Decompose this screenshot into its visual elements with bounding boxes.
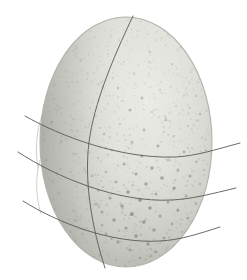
speckle-grain [92, 54, 94, 56]
speckle-grain [129, 134, 131, 136]
speckle-grain [193, 149, 194, 150]
speckle-grain [154, 97, 156, 99]
speckle-grain [78, 118, 79, 119]
speckle-grain [146, 24, 147, 25]
speckle-grain [129, 214, 131, 216]
speckle-grain [106, 251, 108, 253]
speckle-grain [190, 72, 191, 73]
speckle-grain [176, 210, 179, 213]
speckle-grain [137, 101, 139, 103]
speckle-grain [139, 49, 140, 50]
speckle-grain [62, 91, 63, 92]
speckle-grain [96, 160, 97, 161]
speckle-grain [113, 210, 114, 211]
speckle-grain [60, 181, 61, 182]
speckle-grain [171, 63, 173, 65]
speckle-grain [149, 97, 151, 99]
speckle-grain [109, 137, 110, 138]
speckle-grain [103, 65, 104, 66]
speckle-grain [147, 58, 148, 59]
speckle-grain [167, 143, 168, 144]
speckle [195, 95, 197, 97]
speckle-grain [165, 73, 166, 74]
speckle-grain [104, 108, 106, 110]
speckle-grain [184, 229, 186, 231]
speckle-grain [50, 93, 52, 95]
speckle-grain [193, 70, 194, 71]
speckle [148, 206, 152, 210]
speckle-grain [106, 95, 107, 96]
speckle-grain [126, 83, 128, 85]
speckle-grain [96, 66, 98, 68]
speckle-grain [190, 168, 191, 169]
speckle-grain [149, 228, 151, 230]
speckle-grain [179, 153, 181, 155]
speckle-grain [118, 240, 120, 242]
speckle-grain [107, 153, 109, 155]
speckle-grain [190, 199, 191, 200]
speckle-grain [154, 80, 155, 81]
speckle [120, 204, 123, 207]
speckle-grain [169, 229, 171, 231]
speckle-grain [111, 187, 113, 189]
speckle-grain [77, 84, 78, 85]
speckle-grain [142, 109, 144, 111]
speckle-grain [109, 219, 110, 220]
speckle-grain [182, 140, 183, 141]
speckle-grain [123, 29, 125, 31]
speckle [171, 223, 174, 226]
speckle-grain [144, 146, 145, 147]
speckle-grain [112, 28, 114, 30]
speckle-grain [53, 95, 54, 96]
speckle-grain [72, 72, 74, 74]
speckle-grain [153, 93, 155, 95]
speckle-grain [68, 219, 70, 221]
speckle-grain [127, 164, 129, 166]
speckle-grain [206, 163, 208, 165]
speckle-grain [204, 174, 206, 176]
speckle-grain [59, 107, 61, 109]
speckle-grain [187, 213, 189, 215]
speckle [134, 234, 138, 238]
speckle-grain [134, 107, 136, 109]
speckle-grain [193, 124, 196, 127]
speckle-grain [132, 172, 134, 174]
speckle-grain [149, 54, 151, 56]
speckle-grain [155, 210, 157, 212]
speckle [199, 113, 201, 115]
speckle-grain [75, 185, 77, 187]
speckle-grain [205, 149, 206, 150]
speckle [203, 169, 205, 171]
speckle-grain [86, 79, 88, 81]
speckle-grain [199, 176, 200, 177]
speckle-grain [161, 248, 162, 249]
speckle-grain [188, 81, 190, 83]
speckle-grain [159, 175, 160, 176]
speckle-grain [122, 155, 124, 157]
speckle-grain [132, 249, 134, 251]
speckle-grain [185, 138, 187, 140]
speckle-grain [119, 32, 120, 33]
speckle-grain [92, 113, 94, 115]
speckle-grain [118, 118, 120, 120]
speckle-grain [117, 74, 119, 76]
speckle-grain [78, 172, 80, 174]
speckle-grain [70, 129, 72, 131]
speckle-grain [87, 74, 88, 75]
speckle-grain [126, 40, 129, 43]
speckle-grain [171, 102, 172, 103]
speckle-grain [162, 153, 163, 154]
speckle-grain [67, 86, 69, 88]
speckle-grain [58, 149, 60, 151]
speckle-grain [163, 120, 165, 122]
speckle-grain [153, 61, 155, 63]
speckle-grain [158, 88, 159, 89]
speckle-grain [73, 103, 76, 106]
speckle-grain [81, 70, 83, 72]
speckle-grain [66, 124, 68, 126]
speckle-grain [123, 92, 124, 93]
speckle-grain [118, 230, 121, 233]
speckle-grain [134, 260, 135, 261]
speckle-grain [196, 202, 197, 203]
speckle-grain [196, 103, 198, 105]
